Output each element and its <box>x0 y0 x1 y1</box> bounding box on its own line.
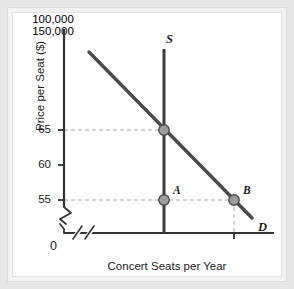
supply-curve-label: S <box>166 33 173 46</box>
y-axis-title: Price per Seat ($) <box>35 41 47 131</box>
y-tick-label-55: 55 <box>21 194 51 206</box>
equilibrium-marker <box>159 125 169 135</box>
y-axis-lower-stub <box>60 224 64 233</box>
point-a-label: A <box>173 185 181 197</box>
origin-label: 0 <box>50 240 57 253</box>
y-tick-label-60: 60 <box>21 159 51 171</box>
point-b-label: B <box>243 185 251 197</box>
y-axis-break-icon <box>60 207 71 224</box>
demand-curve <box>89 52 252 218</box>
point-a-marker <box>159 195 169 205</box>
x-axis-title: Concert Seats per Year <box>87 261 247 273</box>
demand-curve-label: D <box>258 221 267 234</box>
point-b-marker <box>229 195 239 205</box>
supply-demand-plot <box>13 13 281 276</box>
chart-screenshot: 65 60 55 0 100,000 150,000 Price per Sea… <box>0 0 294 289</box>
chart-panel: 65 60 55 0 100,000 150,000 Price per Sea… <box>12 12 282 277</box>
